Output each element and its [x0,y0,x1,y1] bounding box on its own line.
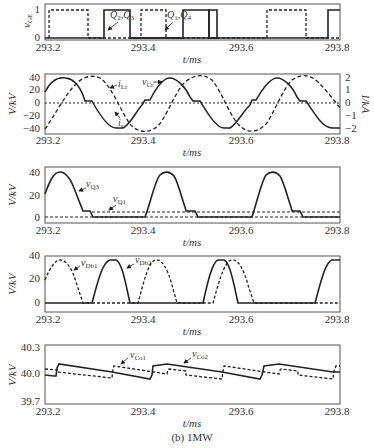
figure-caption: (b) 1MW [171,431,213,444]
svg-text:293.6: 293.6 [229,405,254,417]
y-axis-label: vGE [20,14,34,28]
series-q1-q4 [49,10,340,38]
panel-switch-voltage: 40 20 0 V/kV vQ3 vQ1 293.2 293.4 293.6 2… [6,166,350,248]
annotation-vcr: vCr [142,76,154,89]
svg-text:40: 40 [29,71,41,83]
svg-text:293.8: 293.8 [325,41,350,53]
svg-text:293.4: 293.4 [131,134,156,146]
svg-text:40.0: 40.0 [21,367,41,379]
svg-text:t/ms: t/ms [183,325,201,337]
svg-text:0: 0 [35,211,41,223]
svg-text:−40: −40 [23,122,41,134]
svg-text:−1: −1 [345,109,357,121]
svg-text:2: 2 [345,71,351,83]
svg-text:0: 0 [35,96,41,108]
svg-text:20: 20 [29,189,41,201]
svg-text:293.4: 293.4 [131,313,156,325]
svg-text:V/kV: V/kV [6,363,18,386]
svg-text:40: 40 [29,249,41,261]
svg-text:1: 1 [345,83,351,95]
panel-gate-signals: 1 0 vGE Q2,Q3 Q1,Q4 293.2 293.4 293.6 29… [20,3,350,65]
svg-text:293.8: 293.8 [325,134,350,146]
svg-text:293.6: 293.6 [229,134,254,146]
annotation-vq3: vQ3 [86,178,100,191]
svg-text:293.2: 293.2 [36,313,61,325]
panel-diode-voltage: 40 20 0 V/kV vDb1 vDb2 293.2 293.4 293.6… [6,249,350,337]
svg-text:V/kV: V/kV [6,272,18,295]
annotation-vco2: vCo2 [192,348,209,361]
svg-text:0: 0 [345,96,351,108]
plot-frame [45,74,340,134]
x-axis-label: t/ms [183,53,201,65]
annotation-vco1: vCo1 [130,349,147,362]
svg-text:293.4: 293.4 [131,405,156,417]
svg-text:293.2: 293.2 [36,134,61,146]
svg-text:t/ms: t/ms [183,417,201,429]
svg-text:293.6: 293.6 [229,41,254,53]
svg-text:293.8: 293.8 [325,405,350,417]
svg-text:40.3: 40.3 [21,341,41,353]
y-tick-1: 1 [35,3,41,15]
annotation-ilr: iLr [118,78,128,91]
series-vco2 [45,364,340,379]
svg-text:293.8: 293.8 [325,224,350,236]
svg-text:t/ms: t/ms [183,146,201,158]
svg-text:0: 0 [35,296,41,308]
panel-output-capacitor: 40.3 40.0 39.7 V/kV vCo1 vCo2 293.2 293.… [6,341,350,429]
svg-text:293.8: 293.8 [325,313,350,325]
svg-text:20: 20 [29,272,41,284]
figure-canvas: 1 0 vGE Q2,Q3 Q1,Q4 293.2 293.4 293.6 29… [0,0,374,448]
y-axis-label-left: V/kV [6,92,18,115]
annotation-vq1: vQ1 [113,193,127,206]
svg-text:293.4: 293.4 [131,224,156,236]
svg-text:−2: −2 [345,122,357,134]
svg-text:293.2: 293.2 [36,41,61,53]
y-axis-label-right: I/kA [360,94,372,114]
svg-text:293.4: 293.4 [131,41,156,53]
svg-text:293.2: 293.2 [36,224,61,236]
svg-text:t/ms: t/ms [183,236,201,248]
svg-text:293.6: 293.6 [229,313,254,325]
x-ticks: 293.2 293.4 293.6 293.8 [36,41,350,53]
svg-text:40: 40 [29,166,41,178]
panel-resonant: 40 20 0 −20 −40 2 1 0 −1 −2 V/kV I/kA iL… [6,71,372,158]
svg-text:−20: −20 [23,109,41,121]
annotation-vdb1: vDb1 [81,257,98,270]
annotation-q1-q4: Q1,Q4 [167,9,191,22]
svg-text:293.6: 293.6 [229,224,254,236]
svg-text:293.2: 293.2 [36,405,61,417]
series-q2-q3-cont [130,10,340,38]
svg-text:20: 20 [29,83,41,95]
svg-text:V/kV: V/kV [6,183,18,206]
